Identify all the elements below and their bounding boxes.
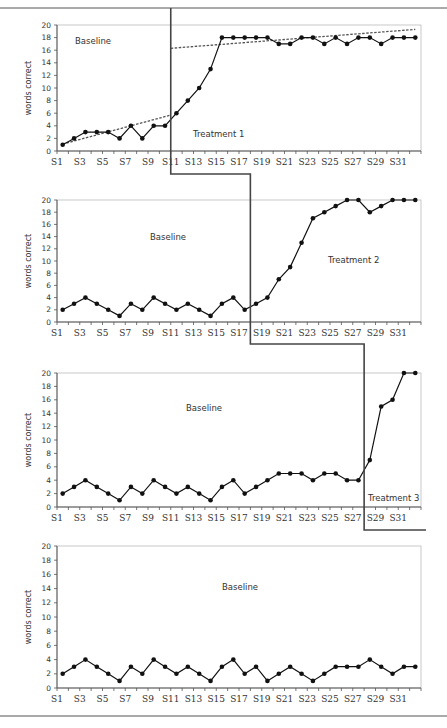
x-tick-label: S15 — [207, 513, 225, 523]
x-tick-label: S5 — [97, 157, 109, 167]
data-point — [231, 657, 236, 662]
data-point — [277, 672, 282, 677]
data-point — [345, 478, 350, 483]
data-point — [197, 491, 202, 496]
y-tick-label: 14 — [41, 584, 51, 593]
data-point — [368, 458, 373, 463]
x-tick-label: S13 — [185, 694, 203, 704]
y-tick-label: 0 — [46, 503, 51, 512]
data-point — [60, 308, 65, 313]
data-point — [72, 301, 77, 306]
x-tick-label: S11 — [162, 328, 180, 338]
y-tick-label: 8 — [46, 627, 51, 636]
data-point — [390, 35, 395, 40]
x-tick-label: S27 — [344, 328, 362, 338]
panel-2: 02468101214161820S1S3S5S7S9S11S13S15S17S… — [24, 196, 421, 338]
x-tick-label: S25 — [321, 694, 339, 704]
x-tick-label: S17 — [230, 694, 248, 704]
y-tick-label: 14 — [41, 232, 51, 241]
y-tick-label: 20 — [41, 21, 51, 30]
y-tick-label: 12 — [41, 71, 51, 80]
data-point — [242, 308, 247, 313]
data-point — [322, 210, 327, 215]
treatment-label: Treatment 2 — [327, 255, 379, 265]
data-point — [140, 491, 145, 496]
x-tick-label: S19 — [253, 328, 271, 338]
x-tick-label: S21 — [276, 157, 294, 167]
data-point — [186, 485, 191, 490]
x-tick-label: S1 — [51, 157, 63, 167]
x-tick-label: S25 — [321, 157, 339, 167]
data-point — [174, 111, 179, 116]
data-point — [322, 42, 327, 47]
data-point — [83, 295, 88, 300]
data-point — [106, 672, 111, 677]
data-point — [413, 35, 418, 40]
data-point — [117, 314, 122, 319]
data-point — [254, 485, 259, 490]
x-tick-label: S13 — [185, 513, 203, 523]
data-point — [288, 471, 293, 476]
series-line — [63, 373, 416, 500]
x-tick-label: S29 — [367, 513, 385, 523]
x-tick-label: S15 — [207, 694, 225, 704]
data-point — [95, 485, 100, 490]
x-tick-label: S27 — [344, 157, 362, 167]
data-point — [174, 491, 179, 496]
treatment-label: Treatment 3 — [367, 493, 419, 503]
y-axis-title: words correct — [24, 234, 33, 288]
x-tick-label: S5 — [97, 513, 109, 523]
data-point — [129, 301, 134, 306]
baseline-label: Baseline — [150, 232, 186, 242]
data-point — [186, 664, 191, 669]
data-point — [368, 657, 373, 662]
y-tick-label: 4 — [46, 293, 51, 302]
x-tick-label: S3 — [74, 694, 86, 704]
x-tick-label: S13 — [185, 157, 203, 167]
data-point — [402, 664, 407, 669]
x-tick-label: S13 — [185, 328, 203, 338]
y-tick-label: 14 — [41, 409, 51, 418]
data-point — [208, 498, 213, 503]
data-point — [322, 471, 327, 476]
x-tick-label: S21 — [276, 513, 294, 523]
y-tick-label: 6 — [46, 109, 51, 118]
data-point — [95, 664, 100, 669]
treatment-trend — [171, 29, 416, 48]
data-point — [368, 210, 373, 215]
y-tick-label: 14 — [41, 58, 51, 67]
y-tick-label: 8 — [46, 269, 51, 278]
data-point — [413, 664, 418, 669]
data-point — [95, 130, 100, 135]
data-point — [186, 98, 191, 103]
data-point — [72, 485, 77, 490]
data-point — [117, 679, 122, 684]
baseline-label: Baseline — [186, 403, 222, 413]
y-tick-label: 6 — [46, 462, 51, 471]
x-tick-label: S9 — [142, 513, 154, 523]
y-tick-label: 2 — [46, 489, 51, 498]
multiple-baseline-figure: 02468101214161820S1S3S5S7S9S11S13S15S17S… — [0, 0, 447, 728]
data-point — [413, 371, 418, 376]
x-tick-label: S19 — [253, 694, 271, 704]
data-point — [265, 679, 270, 684]
data-point — [140, 308, 145, 313]
data-point — [402, 371, 407, 376]
data-point — [299, 35, 304, 40]
data-point — [117, 498, 122, 503]
x-tick-label: S9 — [142, 328, 154, 338]
data-point — [265, 295, 270, 300]
y-tick-label: 18 — [41, 382, 51, 391]
y-tick-label: 0 — [46, 318, 51, 327]
y-tick-label: 0 — [46, 147, 51, 156]
y-axis-title: words correct — [24, 61, 33, 115]
y-tick-label: 4 — [46, 121, 51, 130]
data-point — [231, 478, 236, 483]
data-point — [197, 672, 202, 677]
data-point — [368, 35, 373, 40]
data-point — [72, 664, 77, 669]
y-tick-label: 10 — [41, 436, 51, 445]
data-point — [208, 679, 213, 684]
data-point — [129, 664, 134, 669]
x-tick-label: S9 — [142, 694, 154, 704]
